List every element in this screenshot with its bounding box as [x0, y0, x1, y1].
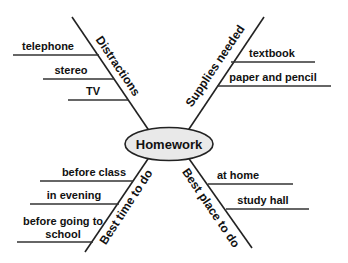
item-label-stereo: stereo [54, 64, 87, 77]
item-label-before-class: before class [62, 166, 126, 179]
center-node-label: Homework [136, 137, 202, 152]
item-label-telephone: telephone [22, 40, 74, 53]
item-label-at-home: at home [217, 169, 259, 182]
item-label-in-evening: in evening [47, 189, 101, 202]
item-label-tv: TV [86, 85, 100, 98]
item-label-textbook: textbook [249, 47, 295, 60]
item-label-study-hall: study hall [237, 194, 288, 207]
item-label-before-school: before going to school [20, 215, 106, 240]
item-label-paper-pencil: paper and pencil [229, 71, 316, 84]
spider-diagram-canvas: Homework Distractions Supplies needed Be… [0, 0, 348, 263]
